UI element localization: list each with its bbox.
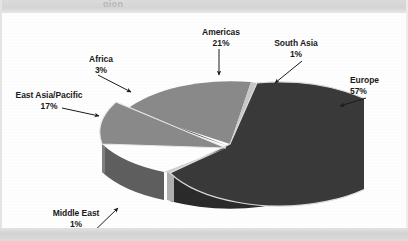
callout-south-asia-label: South Asia <box>258 38 334 49</box>
slice-side-middle-east <box>167 172 174 202</box>
callout-africa: Africa 3% <box>74 54 128 75</box>
callout-middle-east-label: Middle East <box>32 208 120 219</box>
callout-europe-percent: 57% <box>350 86 408 97</box>
callout-americas-label: Americas <box>185 27 257 38</box>
callout-east-asia-label: East Asia/Pacific <box>4 90 94 101</box>
callout-africa-percent: 3% <box>74 65 128 76</box>
callout-south-asia-percent: 1% <box>258 49 334 60</box>
callout-south-asia: South Asia 1% <box>258 38 334 59</box>
side-wall-highlight <box>102 144 105 173</box>
callout-americas: Americas 21% <box>185 27 257 48</box>
callout-americas-percent: 21% <box>185 38 257 49</box>
cropped-title-fragment: gion <box>103 0 163 7</box>
callout-europe-label: Europe <box>350 75 408 86</box>
callout-middle-east: Middle East 1% <box>32 208 120 229</box>
callout-east-asia-percent: 17% <box>4 101 94 112</box>
top-scan-band: gion <box>0 0 408 13</box>
bottom-scan-band <box>0 228 408 241</box>
slice-side-east-asia <box>102 144 164 200</box>
chart-stage: Americas 21% South Asia 1% Europe 57% Af… <box>0 13 408 228</box>
callout-europe: Europe 57% <box>350 75 408 96</box>
callout-east-asia: East Asia/Pacific 17% <box>4 90 94 111</box>
pie-chart-figure: gion <box>0 0 408 241</box>
callout-africa-label: Africa <box>74 54 128 65</box>
pie-chart <box>96 60 364 218</box>
